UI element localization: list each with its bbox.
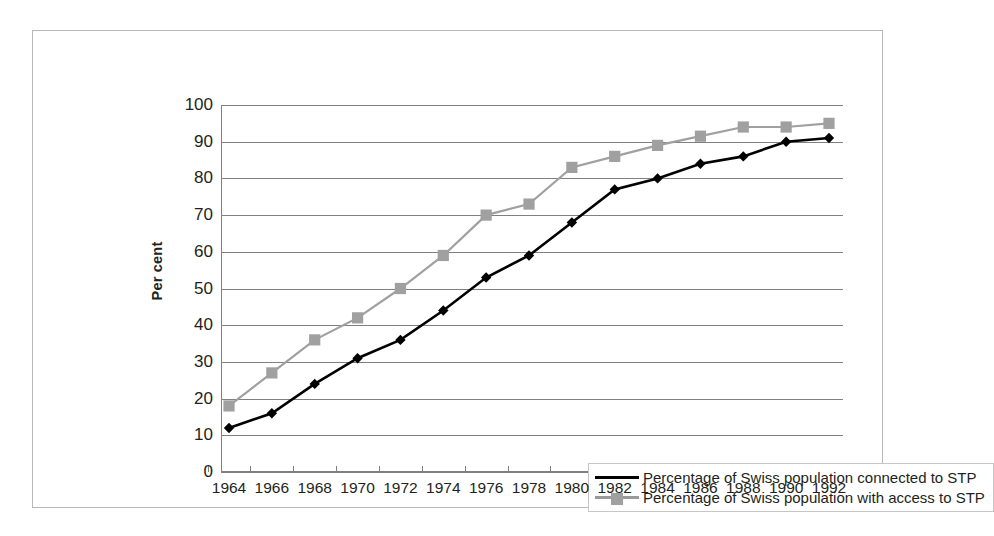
square-marker-icon bbox=[309, 334, 320, 345]
diamond-marker-icon bbox=[224, 423, 234, 433]
plot-area: Percentage of Swiss population connected… bbox=[221, 105, 843, 472]
diamond-marker-icon bbox=[781, 137, 791, 147]
y-tick-label: 100 bbox=[185, 95, 213, 115]
square-marker-icon bbox=[823, 118, 834, 129]
x-tick-label: 1990 bbox=[769, 479, 803, 497]
square-marker-icon bbox=[781, 121, 792, 132]
y-tick-label: 10 bbox=[194, 425, 213, 445]
x-tick-label: 1964 bbox=[212, 479, 246, 497]
y-tick-label: 90 bbox=[194, 132, 213, 152]
y-tick-label: 30 bbox=[194, 352, 213, 372]
square-marker-icon bbox=[438, 250, 449, 261]
chart-frame: Per cent 0102030405060708090100 Percenta… bbox=[32, 30, 883, 508]
y-tick-label: 60 bbox=[194, 242, 213, 262]
x-tick-label: 1982 bbox=[597, 479, 631, 497]
x-tick bbox=[208, 466, 209, 472]
square-marker-icon bbox=[695, 131, 706, 142]
square-marker-icon bbox=[395, 283, 406, 294]
x-tick-label: 1968 bbox=[297, 479, 331, 497]
square-marker-icon bbox=[481, 210, 492, 221]
y-tick-label: 20 bbox=[194, 389, 213, 409]
x-tick-label: 1980 bbox=[555, 479, 589, 497]
square-marker-icon bbox=[352, 312, 363, 323]
square-marker-icon bbox=[652, 140, 663, 151]
square-marker-icon bbox=[223, 400, 234, 411]
diamond-marker-icon bbox=[824, 133, 834, 143]
square-marker-icon bbox=[738, 121, 749, 132]
square-marker-icon bbox=[609, 151, 620, 162]
x-tick-label: 1986 bbox=[683, 479, 717, 497]
series-line bbox=[229, 123, 829, 406]
y-tick-label: 50 bbox=[194, 279, 213, 299]
y-tick-label: 80 bbox=[194, 168, 213, 188]
x-tick-label: 1976 bbox=[469, 479, 503, 497]
square-marker-icon bbox=[266, 367, 277, 378]
x-axis-tick-labels: 1964196619681970197219741976197819801982… bbox=[221, 479, 843, 509]
x-tick-label: 1972 bbox=[383, 479, 417, 497]
diamond-marker-icon bbox=[695, 159, 705, 169]
x-tick-label: 1992 bbox=[812, 479, 846, 497]
series-connected bbox=[224, 133, 834, 433]
square-marker-icon bbox=[566, 162, 577, 173]
series-plot bbox=[221, 105, 843, 472]
x-tick-label: 1974 bbox=[426, 479, 460, 497]
y-axis-tick-labels: 0102030405060708090100 bbox=[163, 105, 213, 472]
square-marker-icon bbox=[523, 198, 534, 209]
y-tick-label: 70 bbox=[194, 205, 213, 225]
x-tick-label: 1988 bbox=[726, 479, 760, 497]
x-tick-label: 1978 bbox=[512, 479, 546, 497]
x-tick-label: 1984 bbox=[640, 479, 674, 497]
x-tick-label: 1966 bbox=[255, 479, 289, 497]
diamond-marker-icon bbox=[738, 151, 748, 161]
series-access bbox=[223, 118, 834, 412]
y-tick-label: 40 bbox=[194, 315, 213, 335]
x-tick-label: 1970 bbox=[340, 479, 374, 497]
diamond-marker-icon bbox=[652, 173, 662, 183]
